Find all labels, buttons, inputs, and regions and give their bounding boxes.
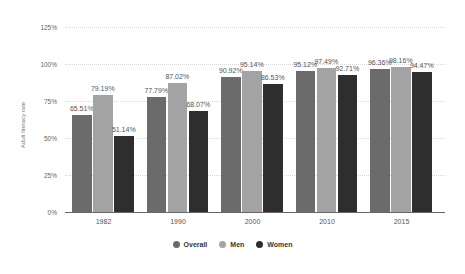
legend-dot-icon [219, 241, 226, 248]
bar-women-1990[interactable] [189, 111, 209, 212]
y-tick-label: 100% [40, 61, 57, 68]
data-label: 51.14% [112, 126, 136, 133]
bar-overall-2015[interactable] [370, 69, 390, 212]
bar-women-1982[interactable] [114, 136, 134, 212]
data-label: 87.02% [165, 73, 189, 80]
data-label: 86.53% [261, 74, 285, 81]
data-label: 65.51% [70, 105, 94, 112]
legend-item-overall[interactable]: Overall [173, 241, 208, 248]
x-category-label: 2010 [319, 218, 335, 225]
x-category-label: 1990 [170, 218, 186, 225]
bar-men-1982[interactable] [93, 95, 113, 212]
y-tick-label: 50% [44, 135, 57, 142]
y-tick-label: 25% [44, 172, 57, 179]
legend: Overall Men Women [0, 241, 465, 248]
data-label: 97.49% [314, 58, 338, 65]
legend-dot-icon [173, 241, 180, 248]
bar-women-2010[interactable] [338, 75, 358, 212]
x-axis-line [65, 212, 445, 213]
bar-men-1990[interactable] [168, 83, 188, 212]
x-category-label: 1982 [96, 218, 112, 225]
legend-item-women[interactable]: Women [256, 241, 292, 248]
data-label: 77.79% [144, 87, 168, 94]
y-tick-label: 125% [40, 24, 57, 31]
y-axis-label: Adult literacy rate [20, 102, 26, 148]
bar-overall-2000[interactable] [221, 77, 241, 212]
legend-item-men[interactable]: Men [219, 241, 244, 248]
legend-label: Men [230, 241, 244, 248]
x-category-label: 2015 [394, 218, 410, 225]
bar-men-2015[interactable] [391, 67, 411, 212]
bar-overall-1982[interactable] [72, 115, 92, 212]
data-label: 95.14% [240, 61, 264, 68]
y-tick-label: 0% [48, 209, 57, 216]
bar-women-2015[interactable] [412, 72, 432, 212]
bar-chart: Adult literacy rate 0%25%50%75%100%125% … [0, 0, 465, 274]
bar-overall-2010[interactable] [296, 71, 316, 212]
data-label: 90.92% [219, 67, 243, 74]
gridline [65, 27, 445, 28]
data-label: 92.71% [335, 65, 359, 72]
y-tick-label: 75% [44, 98, 57, 105]
bar-men-2010[interactable] [317, 68, 337, 212]
x-category-label: 2000 [245, 218, 261, 225]
data-label: 94.47% [410, 62, 434, 69]
bar-overall-1990[interactable] [147, 97, 167, 212]
legend-label: Women [267, 241, 292, 248]
legend-dot-icon [256, 241, 263, 248]
legend-label: Overall [184, 241, 208, 248]
bar-men-2000[interactable] [242, 71, 262, 212]
data-label: 79.19% [91, 85, 115, 92]
data-label: 68.07% [186, 101, 210, 108]
bar-women-2000[interactable] [263, 84, 283, 212]
